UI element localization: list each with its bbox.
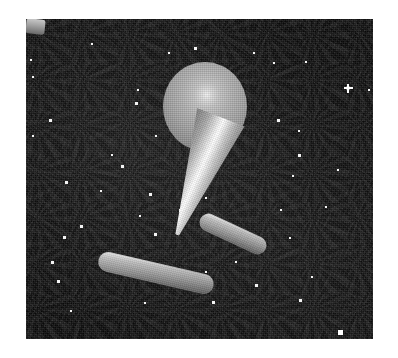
scene-objects [26,19,373,339]
render-frame [26,19,373,339]
bent-bar-lower-segment [96,250,215,296]
bent-bar-upper-segment [197,211,270,258]
screenshot-root: Grey shaded sphere with a downward-point… [0,0,398,358]
bar-end-cap [26,19,46,35]
